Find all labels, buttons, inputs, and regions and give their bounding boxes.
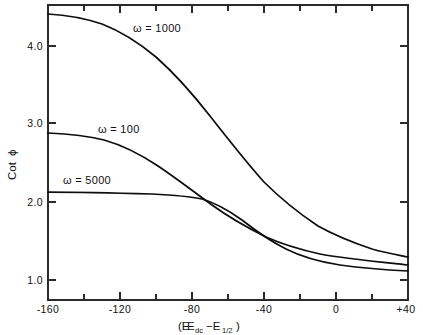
- chart-canvas: 4.0 3.0 2.0 1.0: [0, 0, 423, 335]
- x-tick-label-neg160: -160: [37, 303, 60, 315]
- y-axis-title-phi: ϕ: [6, 150, 18, 156]
- x-tick-label-neg40: -40: [256, 303, 272, 315]
- label-omega-100: ω = 100: [98, 123, 140, 135]
- x-tick-label-pos40: +40: [396, 303, 415, 315]
- series-annotations: ω = 1000 ω = 100 ω = 5000: [63, 22, 181, 186]
- x-tick-label-neg120: -120: [109, 303, 132, 315]
- curve-omega-1000: [48, 14, 408, 257]
- figure-container: 4.0 3.0 2.0 1.0: [0, 0, 423, 335]
- y-axis-tick-labels: 4.0 3.0 2.0 1.0: [27, 40, 43, 286]
- x-axis-title-e1: E: [187, 320, 195, 332]
- y-tick-label-4: 4.0: [27, 40, 43, 52]
- right-axis-ticks: [400, 46, 408, 280]
- x-tick-label-neg80: -80: [184, 303, 200, 315]
- x-axis-minor-ticks: [84, 294, 372, 300]
- x-axis-title-sub-half: 1/2: [222, 326, 233, 335]
- curve-omega-100: [48, 133, 408, 265]
- y-tick-label-3: 3.0: [27, 117, 43, 129]
- x-axis-title-minus-e: −E: [206, 320, 221, 332]
- label-omega-5000: ω = 5000: [63, 174, 111, 186]
- y-tick-label-2: 2.0: [27, 196, 43, 208]
- y-axis-title: Cot ϕ: [6, 150, 18, 180]
- x-axis-title-sub-dc: dc: [195, 326, 203, 335]
- x-axis-title: (E E dc −E 1/2 ): [178, 320, 240, 335]
- y-axis-title-text: Cot: [6, 161, 18, 180]
- x-axis-tick-labels: -160 -120 -80 -40 0 +40: [37, 303, 416, 315]
- y-tick-label-1: 1.0: [27, 274, 43, 286]
- y-axis-ticks: [48, 46, 56, 280]
- label-omega-1000: ω = 1000: [133, 22, 181, 34]
- x-axis-title-close: ): [236, 320, 240, 332]
- top-axis-ticks: [84, 5, 372, 13]
- plot-frame: [48, 5, 408, 300]
- x-tick-label-zero: 0: [333, 303, 339, 315]
